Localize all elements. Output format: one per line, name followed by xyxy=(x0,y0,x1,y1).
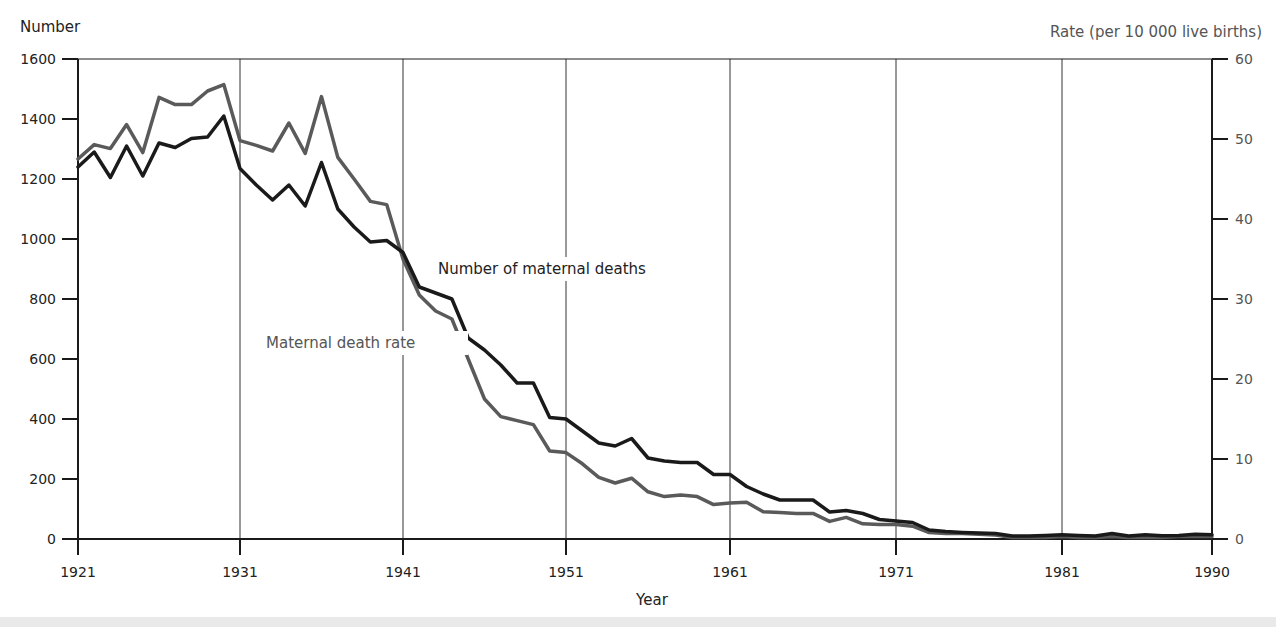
bottom-strip xyxy=(0,617,1276,627)
right-tick-label: 60 xyxy=(1235,51,1253,67)
left-tick-label: 1200 xyxy=(20,171,56,187)
x-tick-label: 1971 xyxy=(878,564,914,580)
right-tick-label: 40 xyxy=(1235,211,1253,227)
maternal-death-rate-line xyxy=(78,85,1212,538)
annotation-number-of-maternal-deaths: Number of maternal deaths xyxy=(438,260,646,278)
x-tick-label: 1961 xyxy=(712,564,748,580)
right-tick-label: 30 xyxy=(1235,291,1253,307)
x-axis-title: Year xyxy=(635,591,669,609)
left-tick-label: 1400 xyxy=(20,111,56,127)
left-tick-label: 0 xyxy=(47,531,56,547)
left-tick-label: 600 xyxy=(29,351,56,367)
annotation-maternal-death-rate: Maternal death rate xyxy=(266,334,415,352)
y-axis-left-title: Number xyxy=(20,18,81,36)
x-tick-label: 1941 xyxy=(385,564,421,580)
left-tick-label: 400 xyxy=(29,411,56,427)
right-tick-label: 50 xyxy=(1235,131,1253,147)
x-tick-label: 1931 xyxy=(222,564,258,580)
left-tick-label: 1000 xyxy=(20,231,56,247)
left-tick-label: 200 xyxy=(29,471,56,487)
right-tick-label: 0 xyxy=(1235,531,1244,547)
x-tick-label: 1981 xyxy=(1044,564,1080,580)
x-axis-ticks: 19211931194119511961197119811990 xyxy=(60,539,1230,580)
data-series xyxy=(78,85,1212,538)
vertical-gridlines xyxy=(240,59,1062,539)
y-axis-right-title: Rate (per 10 000 live births) xyxy=(1050,23,1262,41)
right-axis-ticks: 0102030405060 xyxy=(1212,51,1253,547)
x-tick-label: 1990 xyxy=(1194,564,1230,580)
left-tick-label: 800 xyxy=(29,291,56,307)
right-tick-label: 10 xyxy=(1235,451,1253,467)
maternal-deaths-chart: 02004006008001000120014001600 0102030405… xyxy=(0,0,1276,627)
number-of-maternal-deaths-line xyxy=(78,116,1212,536)
left-tick-label: 1600 xyxy=(20,51,56,67)
right-tick-label: 20 xyxy=(1235,371,1253,387)
x-tick-label: 1921 xyxy=(60,564,96,580)
left-axis-ticks: 02004006008001000120014001600 xyxy=(20,51,78,547)
x-tick-label: 1951 xyxy=(548,564,584,580)
